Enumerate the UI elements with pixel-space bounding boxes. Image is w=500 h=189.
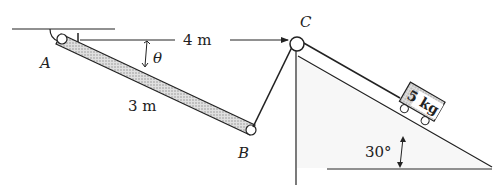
pin-a-icon [57,34,67,44]
incline-angle-label: 30° [365,143,392,161]
diagram-canvas: 5 kg A B C θ 4 m 3 m 30° [0,0,500,189]
theta-label: θ [153,49,162,67]
point-b-label: B [237,144,249,162]
rope-bc [253,47,292,127]
theta-angle-marker [142,41,150,67]
pulley-c-icon [290,37,304,51]
incline-plane [296,50,492,185]
pin-b-icon [246,125,256,135]
distance-4m-label: 4 m [183,31,212,49]
bar-length-label: 3 m [128,97,157,115]
point-a-label: A [38,54,51,72]
point-c-label: C [300,13,312,31]
